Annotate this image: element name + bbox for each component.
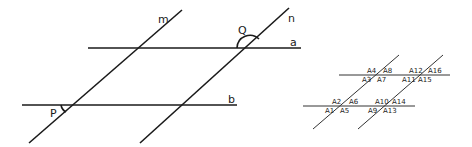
angle-p-arc [61,105,66,112]
angle-label: A9 [368,107,377,115]
line-m [29,10,182,143]
diagram-canvas: m n a b Q P A4 A8 A3 A7 A12 A16 A11 A15 … [0,0,472,147]
label-p: P [50,107,57,120]
angle-label: A13 [383,107,397,115]
label-m: m [158,13,169,26]
label-q: Q [238,24,247,37]
label-n: n [288,12,295,25]
angle-label: A11 [402,76,416,84]
angle-label: A15 [418,76,432,84]
angle-label: A16 [428,67,442,75]
angle-label: A2 [332,98,341,106]
angle-label: A14 [392,98,406,106]
angle-label: A7 [377,76,386,84]
angle-label: A5 [340,107,349,115]
angle-label: A12 [409,67,423,75]
angle-label: A10 [375,98,389,106]
angle-diagram: A4 A8 A3 A7 A12 A16 A11 A15 A2 A6 A1 A5 … [303,55,450,129]
angle-label: A8 [383,67,392,75]
label-a: a [290,36,297,49]
angle-label: A4 [367,67,377,75]
line-n [140,8,289,143]
angle-label: A1 [325,107,334,115]
label-b: b [228,93,235,106]
main-diagram: m n a b Q P [22,8,301,143]
angle-label: A6 [349,98,359,106]
angle-label: A3 [362,76,371,84]
